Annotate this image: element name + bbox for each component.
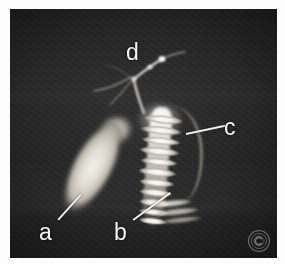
label-b: b	[114, 221, 127, 244]
label-c: c	[224, 116, 236, 139]
leader-line-a	[57, 194, 81, 220]
label-d: d	[126, 41, 139, 64]
annotation-layer: a b c d	[10, 9, 277, 258]
leader-line-b	[133, 192, 171, 220]
figure-root: a b c d	[0, 0, 285, 264]
label-a: a	[39, 221, 52, 244]
leader-line-c	[186, 125, 225, 135]
medical-scan-panel: a b c d	[10, 9, 277, 258]
copyright-watermark	[247, 229, 271, 253]
